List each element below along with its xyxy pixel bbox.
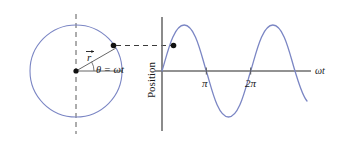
vector-arrow-head-icon [91,50,94,53]
projected-point-marker [171,43,177,49]
angle-arc [92,62,94,71]
x-tick-label-pi: π [202,77,208,89]
radius-vector-label: r [87,51,92,63]
x-tick-label-2pi: 2π [245,77,257,89]
circle-center-dot [73,68,78,73]
rotating-point-marker [111,43,117,49]
figure-container: r θ = ωt π 2π ωt Position [0,0,337,146]
y-axis-label: Position [145,61,157,98]
circular-motion-sine-diagram: r θ = ωt π 2π ωt Position [0,0,337,146]
x-axis-label: ωt [315,65,325,76]
angle-equation-label: θ = ωt [96,64,125,75]
